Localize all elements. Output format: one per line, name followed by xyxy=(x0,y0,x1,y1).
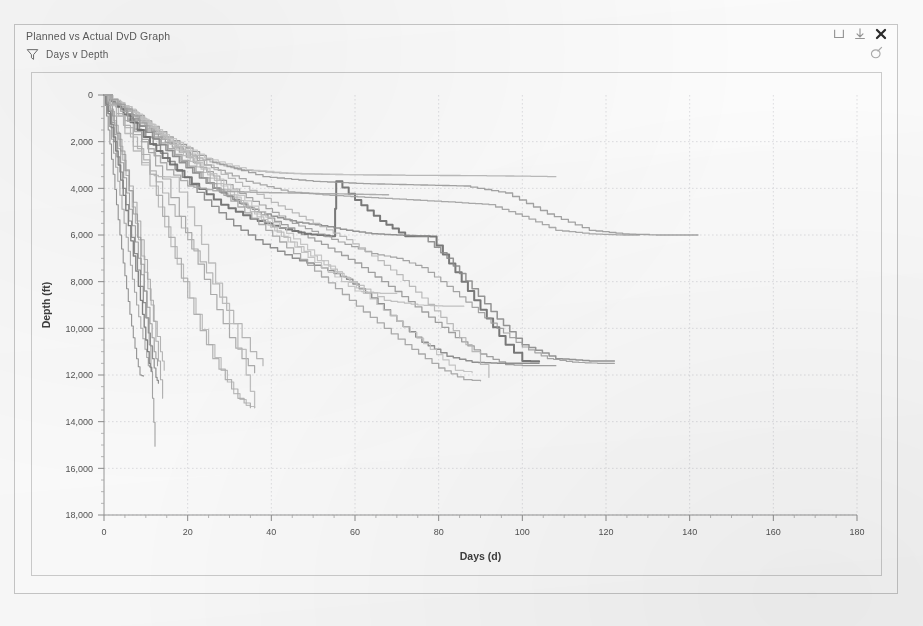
chart-series-line xyxy=(104,95,640,235)
y-tick-label: 0 xyxy=(88,90,93,100)
x-tick-label: 180 xyxy=(849,527,864,537)
x-tick-label: 140 xyxy=(682,527,697,537)
chart-series-line xyxy=(104,95,263,366)
y-tick-label: 4,000 xyxy=(70,184,93,194)
x-tick-label: 0 xyxy=(101,527,106,537)
chart-plot-panel: 02040608010012014016018002,0004,0006,000… xyxy=(31,72,882,576)
chart-series-line xyxy=(104,95,614,363)
x-tick-label: 100 xyxy=(515,527,530,537)
y-tick-label: 18,000 xyxy=(65,510,93,520)
y-tick-label: 16,000 xyxy=(65,464,93,474)
y-tick-label: 8,000 xyxy=(70,277,93,287)
filter-funnel-icon[interactable] xyxy=(26,48,39,61)
x-tick-label: 60 xyxy=(350,527,360,537)
chart-series-line xyxy=(104,95,698,235)
x-tick-label: 20 xyxy=(183,527,193,537)
chart-filter-row[interactable]: Days v Depth xyxy=(26,48,108,61)
chart-series-line xyxy=(104,95,405,176)
window-controls xyxy=(832,27,888,41)
x-tick-label: 80 xyxy=(434,527,444,537)
y-tick-label: 10,000 xyxy=(65,324,93,334)
window-tools xyxy=(869,45,884,60)
x-tick-label: 160 xyxy=(766,527,781,537)
chart-series-line xyxy=(104,95,614,361)
minimize-icon[interactable] xyxy=(832,27,846,41)
page-title: Planned vs Actual DvD Graph xyxy=(26,30,170,42)
download-icon[interactable] xyxy=(853,27,867,41)
y-tick-label: 2,000 xyxy=(70,137,93,147)
x-tick-label: 40 xyxy=(266,527,276,537)
dvd-line-chart: 02040608010012014016018002,0004,0006,000… xyxy=(32,73,883,577)
y-tick-label: 14,000 xyxy=(65,417,93,427)
chart-subtitle: Days v Depth xyxy=(46,49,108,60)
x-axis-title: Days (d) xyxy=(460,550,501,562)
y-tick-label: 12,000 xyxy=(65,370,93,380)
edit-pencil-icon[interactable] xyxy=(869,45,884,60)
chart-window: Planned vs Actual DvD Graph Days v Depth xyxy=(14,24,898,594)
window-titlebar: Planned vs Actual DvD Graph Days v Depth xyxy=(15,25,897,69)
y-axis-title: Depth (ft) xyxy=(40,282,52,329)
close-icon[interactable] xyxy=(874,27,888,41)
x-tick-label: 120 xyxy=(598,527,613,537)
y-tick-label: 6,000 xyxy=(70,230,93,240)
